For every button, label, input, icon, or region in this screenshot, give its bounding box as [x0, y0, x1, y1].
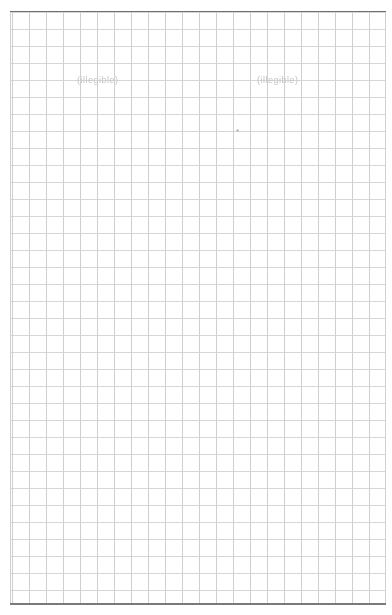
faint-mark: * — [236, 127, 239, 136]
faint-label-left: (illegible) — [77, 75, 119, 85]
faint-label-right: (illegible) — [257, 75, 299, 85]
grid-paper-sheet — [10, 12, 386, 604]
sheet-bottom-border — [10, 603, 386, 605]
